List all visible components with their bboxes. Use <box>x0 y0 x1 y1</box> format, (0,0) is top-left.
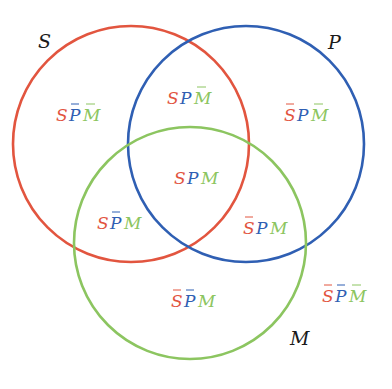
svg-text:S: S <box>243 218 255 238</box>
svg-text:P: P <box>296 105 309 125</box>
svg-text:M: M <box>348 286 367 306</box>
svg-text:S: S <box>322 286 334 306</box>
svg-text:M: M <box>193 88 212 108</box>
svg-text:P: P <box>179 88 192 108</box>
region-nots-p-notm: S P M <box>284 104 329 125</box>
svg-text:P: P <box>334 286 347 306</box>
circle-m <box>74 127 306 359</box>
svg-text:S: S <box>167 88 179 108</box>
set-label-m: M <box>289 327 310 349</box>
svg-text:M: M <box>200 168 219 188</box>
svg-text:M: M <box>123 213 142 233</box>
svg-text:S: S <box>56 105 68 125</box>
svg-text:P: P <box>255 218 268 238</box>
svg-text:M: M <box>197 291 216 311</box>
svg-text:S: S <box>174 168 186 188</box>
venn-diagram: S P M S P M S P M S P M S P M S P M S P <box>0 0 392 389</box>
set-label-p: P <box>327 31 342 53</box>
region-s-notp-m: S P M <box>97 212 142 233</box>
set-label-s: S <box>38 30 51 52</box>
svg-text:P: P <box>186 168 199 188</box>
svg-text:P: P <box>109 213 122 233</box>
region-nots-p-m: S P M <box>243 217 288 238</box>
svg-text:S: S <box>284 105 296 125</box>
region-nots-notp-notm: S P M <box>322 285 367 306</box>
svg-text:M: M <box>82 105 101 125</box>
region-nots-notp-m: S P M <box>171 290 216 311</box>
region-s-notp-notm: S P M <box>56 104 101 125</box>
region-s-p-notm: S P M <box>167 87 212 108</box>
svg-text:S: S <box>171 291 183 311</box>
svg-text:P: P <box>183 291 196 311</box>
svg-text:M: M <box>310 105 329 125</box>
region-s-p-m: S P M <box>174 168 219 188</box>
svg-text:S: S <box>97 213 109 233</box>
svg-text:P: P <box>68 105 81 125</box>
svg-text:M: M <box>269 218 288 238</box>
